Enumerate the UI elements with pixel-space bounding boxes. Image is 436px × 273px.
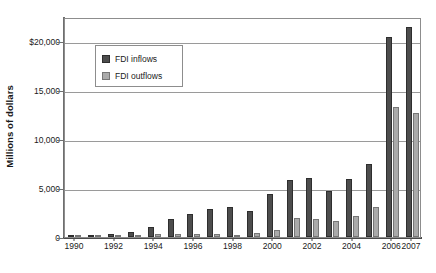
legend-label-inflows: FDI inflows: [115, 54, 157, 64]
bar-outflows-1993: [135, 235, 141, 237]
x-tick-label-2006: 2006: [382, 241, 401, 251]
bar-group-2005: [366, 19, 379, 237]
y-tickmark: [57, 189, 64, 190]
bar-group-1997: [207, 19, 220, 237]
bar-inflows-2005: [366, 164, 372, 237]
bar-inflows-1992: [108, 234, 114, 237]
x-tick-label-1996: 1996: [183, 241, 202, 251]
y-axis-tick-labels: 05,00010,00015,000$20,000: [12, 0, 60, 273]
bar-group-2007: [406, 19, 419, 237]
x-tick-label-2000: 2000: [263, 241, 282, 251]
bar-outflows-2005: [373, 207, 379, 237]
bar-inflows-1996: [187, 214, 193, 237]
bar-inflows-2001: [287, 180, 293, 237]
x-tick-label-1998: 1998: [223, 241, 242, 251]
legend-swatch-icon-inflows: [102, 55, 110, 63]
y-tick-label: 10,000: [12, 135, 60, 145]
bar-outflows-1990: [75, 235, 81, 237]
bar-chart: Millions of dollars 05,00010,00015,000$2…: [0, 0, 436, 273]
y-tickmark: [57, 140, 64, 141]
bar-inflows-1991: [88, 235, 94, 237]
y-tickmark: [57, 91, 64, 92]
bar-inflows-2006: [386, 37, 392, 237]
bar-inflows-1999: [247, 211, 253, 237]
y-tick-label: 0: [12, 233, 60, 243]
bar-group-2001: [287, 19, 300, 237]
bar-inflows-2007: [406, 27, 412, 237]
y-tickmark: [57, 42, 64, 43]
x-tick-label-2004: 2004: [342, 241, 361, 251]
bar-outflows-2007: [413, 113, 419, 237]
x-tick-label-2007: 2007: [402, 241, 421, 251]
bar-inflows-1990: [68, 235, 74, 237]
bar-inflows-2002: [306, 178, 312, 237]
chart-legend: FDI inflows FDI outflows: [95, 45, 183, 87]
bar-outflows-1995: [175, 234, 181, 237]
bar-group-2004: [346, 19, 359, 237]
bar-outflows-1999: [254, 233, 260, 237]
bar-outflows-1994: [155, 234, 161, 237]
y-tickmark: [57, 238, 64, 239]
bar-outflows-2000: [274, 230, 280, 237]
bar-outflows-2001: [294, 218, 300, 237]
bar-outflows-1997: [214, 234, 220, 237]
bar-inflows-2000: [267, 194, 273, 237]
bar-outflows-2004: [353, 216, 359, 238]
bar-group-2000: [267, 19, 280, 237]
x-tick-label-2002: 2002: [302, 241, 321, 251]
bar-group-1990: [68, 19, 81, 237]
y-tick-label: 15,000: [12, 86, 60, 96]
y-tick-label: $20,000: [12, 37, 60, 47]
bar-group-1999: [247, 19, 260, 237]
x-axis-tick-labels: 1990199219941996199820002002200420062007: [64, 241, 421, 259]
bar-group-2003: [326, 19, 339, 237]
bar-outflows-2002: [313, 219, 319, 237]
bar-outflows-2003: [333, 221, 339, 237]
x-tick-label-1990: 1990: [64, 241, 83, 251]
bar-group-2006: [386, 19, 399, 237]
bar-outflows-1992: [115, 235, 121, 237]
legend-label-outflows: FDI outflows: [115, 71, 162, 81]
y-tick-label: 5,000: [12, 184, 60, 194]
x-tick-label-1994: 1994: [144, 241, 163, 251]
bar-inflows-1998: [227, 207, 233, 237]
bar-inflows-1993: [128, 232, 134, 237]
bar-group-2002: [306, 19, 319, 237]
bar-group-1998: [227, 19, 240, 237]
legend-item-fdi-inflows: FDI inflows: [102, 51, 176, 66]
bar-outflows-2006: [393, 107, 399, 237]
bar-inflows-1994: [148, 227, 154, 237]
bar-inflows-2003: [326, 191, 332, 237]
bar-outflows-1998: [234, 235, 240, 237]
bar-inflows-2004: [346, 179, 352, 237]
x-tick-label-1992: 1992: [104, 241, 123, 251]
legend-item-fdi-outflows: FDI outflows: [102, 68, 176, 83]
bar-inflows-1997: [207, 209, 213, 237]
bar-group-1996: [187, 19, 200, 237]
bar-inflows-1995: [168, 219, 174, 237]
bar-outflows-1996: [194, 234, 200, 237]
legend-swatch-icon-outflows: [102, 72, 110, 80]
bar-outflows-1991: [95, 235, 101, 237]
